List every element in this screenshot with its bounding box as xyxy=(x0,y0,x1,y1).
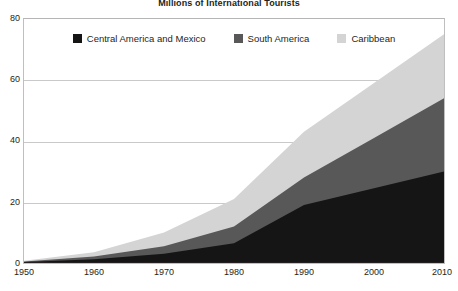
y-tick-label-20: 20 xyxy=(0,198,20,207)
legend-label: South America xyxy=(248,33,310,44)
chart-title: Millions of International Tourists xyxy=(0,0,458,9)
legend-swatch-icon xyxy=(73,34,82,43)
plot-area xyxy=(23,18,445,264)
x-tick-label-1970: 1970 xyxy=(144,266,184,278)
y-axis: 80 60 40 20 0 xyxy=(0,0,20,282)
stacked-area-series xyxy=(24,19,444,263)
legend-label: Central America and Mexico xyxy=(87,33,206,44)
x-tick-label-1980: 1980 xyxy=(214,266,254,278)
x-tick-label-2010: 2010 xyxy=(422,266,458,278)
chart-legend: Central America and Mexico South America… xyxy=(23,30,445,46)
x-tick-label-1990: 1990 xyxy=(284,266,324,278)
legend-label: Caribbean xyxy=(351,33,395,44)
legend-item-central-america: Central America and Mexico xyxy=(73,33,206,44)
x-tick-label-2000: 2000 xyxy=(354,266,394,278)
y-tick-label-60: 60 xyxy=(0,75,20,84)
y-tick-label-40: 40 xyxy=(0,136,20,145)
x-tick-label-1950: 1950 xyxy=(4,266,44,278)
x-axis: 1950 1960 1970 1980 1990 2000 2010 xyxy=(0,266,458,280)
chart-container: Millions of International Tourists 80 60… xyxy=(0,0,458,291)
legend-swatch-icon xyxy=(337,34,346,43)
legend-swatch-icon xyxy=(234,34,243,43)
legend-item-caribbean: Caribbean xyxy=(337,33,395,44)
x-axis-line xyxy=(23,262,445,264)
x-tick-label-1960: 1960 xyxy=(74,266,114,278)
y-tick-label-80: 80 xyxy=(0,14,20,23)
legend-item-south-america: South America xyxy=(234,33,310,44)
